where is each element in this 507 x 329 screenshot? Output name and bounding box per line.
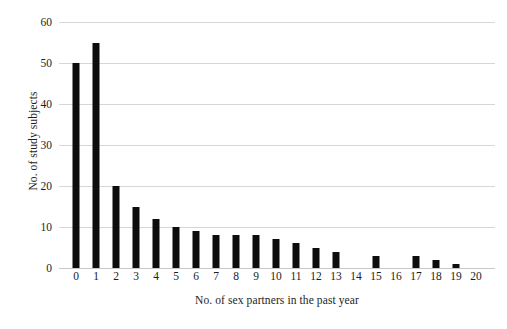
- y-tick-label: 20: [41, 180, 53, 192]
- x-tick-label: 9: [253, 270, 259, 282]
- bar: [333, 252, 340, 268]
- bar-chart: No. of study subjects 0102030405060 0123…: [0, 0, 507, 329]
- bar: [413, 256, 420, 268]
- x-tick-label: 0: [73, 270, 79, 282]
- x-tick-label: 18: [430, 270, 442, 282]
- x-tick-label: 7: [213, 270, 219, 282]
- x-tick-label: 20: [470, 270, 482, 282]
- x-tick-label: 17: [410, 270, 422, 282]
- x-tick-label: 19: [450, 270, 462, 282]
- x-axis-ticks: 01234567891011121314151617181920: [59, 270, 495, 288]
- bar: [193, 231, 200, 268]
- bar: [293, 243, 300, 268]
- gridline: [59, 268, 495, 269]
- x-tick-label: 8: [233, 270, 239, 282]
- x-tick-label: 16: [390, 270, 402, 282]
- bar: [113, 186, 120, 268]
- bar: [153, 219, 160, 268]
- y-tick-label: 40: [41, 98, 53, 110]
- bar: [233, 235, 240, 268]
- x-tick-label: 2: [113, 270, 119, 282]
- x-tick-label: 15: [370, 270, 382, 282]
- bar: [433, 260, 440, 268]
- x-tick-label: 10: [270, 270, 282, 282]
- bar: [313, 248, 320, 269]
- y-axis-title: No. of study subjects: [27, 46, 39, 236]
- x-tick-label: 13: [330, 270, 342, 282]
- plot-area: 0102030405060: [59, 22, 495, 268]
- x-tick-label: 12: [310, 270, 322, 282]
- y-tick-label: 0: [46, 262, 52, 274]
- bar: [253, 235, 260, 268]
- bar: [93, 43, 100, 269]
- x-tick-label: 5: [173, 270, 179, 282]
- x-axis-title: No. of sex partners in the past year: [59, 294, 495, 306]
- y-tick-label: 60: [41, 16, 53, 28]
- y-tick-label: 10: [41, 221, 53, 233]
- bar: [73, 63, 80, 268]
- bar: [133, 207, 140, 269]
- bar: [273, 239, 280, 268]
- y-tick-label: 50: [41, 57, 53, 69]
- bars-series: [59, 22, 495, 268]
- x-tick-label: 1: [93, 270, 99, 282]
- bar: [373, 256, 380, 268]
- x-tick-label: 11: [290, 270, 301, 282]
- bar: [173, 227, 180, 268]
- x-tick-label: 4: [153, 270, 159, 282]
- x-tick-label: 3: [133, 270, 139, 282]
- bar: [213, 235, 220, 268]
- y-tick-label: 30: [41, 139, 53, 151]
- x-tick-label: 6: [193, 270, 199, 282]
- bar: [453, 264, 460, 268]
- x-tick-label: 14: [350, 270, 362, 282]
